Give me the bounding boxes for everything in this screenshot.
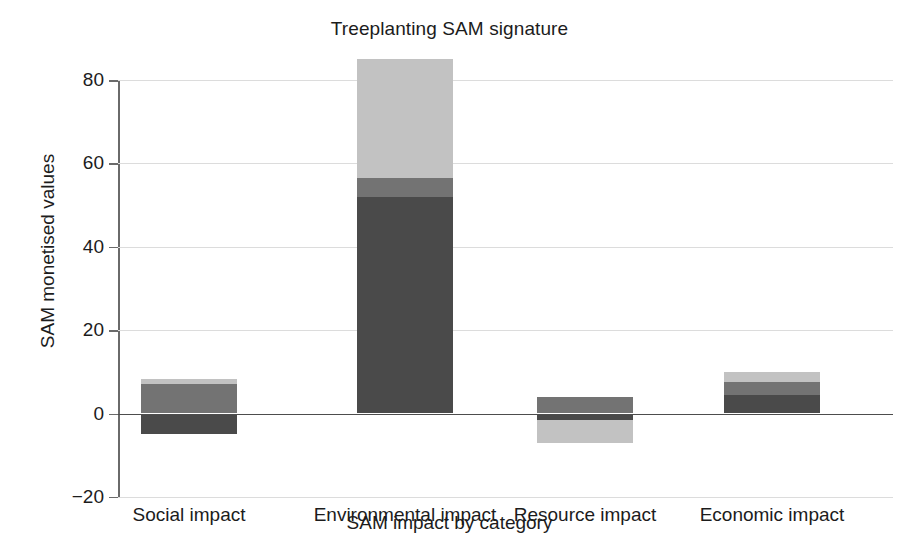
plot-area: Social impactEnvironmental impactResourc… <box>118 56 893 502</box>
bar-resource-impact[interactable] <box>537 56 633 502</box>
bar-social-impact[interactable] <box>141 56 237 502</box>
y-axis-tick-label: −20 <box>34 486 104 508</box>
bar-segment-medium <box>357 178 453 197</box>
y-axis-tick-mark <box>109 80 118 82</box>
zero-axis-line <box>118 414 893 416</box>
y-axis-tick-label: 20 <box>34 319 104 341</box>
y-axis-tick-label: 40 <box>34 236 104 258</box>
y-axis-tick-mark <box>109 497 118 499</box>
bar-segment-dark <box>357 197 453 414</box>
y-axis-tick-label: 0 <box>34 403 104 425</box>
bar-segment-dark <box>141 414 237 435</box>
bar-segment-light <box>537 420 633 443</box>
chart-title: Treeplanting SAM signature <box>0 18 899 40</box>
bar-segment-dark <box>724 395 820 414</box>
bar-segment-light <box>357 59 453 178</box>
y-axis-tick-labels: 806040200−20 <box>20 0 104 554</box>
y-axis-tick-label: 80 <box>34 69 104 91</box>
x-axis-category-label: Economic impact <box>700 504 845 526</box>
y-axis-tick-mark <box>109 247 118 249</box>
x-axis-category-label: Resource impact <box>514 504 657 526</box>
bar-economic-impact[interactable] <box>724 56 820 502</box>
y-axis-tick-mark <box>109 163 118 165</box>
y-axis-tick-mark <box>109 414 118 416</box>
x-axis-category-label: Social impact <box>133 504 246 526</box>
y-axis-tick-label: 60 <box>34 152 104 174</box>
bar-environmental-impact[interactable] <box>357 56 453 502</box>
chart-figure: Treeplanting SAM signature SAM monetised… <box>0 0 899 554</box>
bar-segment-light <box>724 372 820 382</box>
bar-segment-medium <box>724 382 820 395</box>
bar-segment-medium <box>537 397 633 414</box>
bar-segment-medium <box>141 384 237 413</box>
x-axis-category-label: Environmental impact <box>314 504 497 526</box>
y-axis-tick-mark <box>109 330 118 332</box>
